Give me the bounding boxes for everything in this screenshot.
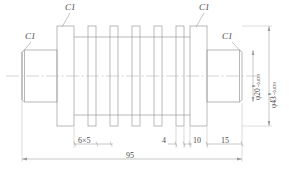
arrow-phi20-top [252, 50, 255, 55]
arrow-95-left [22, 158, 27, 161]
dimension-label-fin-width: 4 [162, 136, 166, 145]
tolerance-lower-phi43: −0.033 [272, 82, 277, 95]
chamfer-label-c1-top-left: C1 [65, 2, 76, 12]
leader-c1-top-right [196, 13, 204, 27]
chamfer-label-c1-left: C1 [25, 31, 36, 41]
part-drawing-canvas [0, 0, 289, 181]
arrow-phi43-top [268, 26, 271, 31]
chamfer-label-c1-top-right: C1 [199, 2, 210, 12]
tolerance-lower-phi20: −0.033 [256, 74, 261, 87]
tolerance-stack-phi20: 0 −0.033 [251, 74, 261, 87]
arrow-95-right [237, 158, 242, 161]
dimension-label-flange-width: 10 [193, 136, 201, 145]
arrow-phi43-bottom [268, 121, 271, 126]
diameter-dimension-phi43: φ43 0 −0.033 [268, 82, 278, 108]
tolerance-stack-phi43: 0 −0.033 [267, 82, 277, 95]
drawing-sheet: C1 C1 C1 C1 6×5 4 10 15 95 φ20 0 −0.033 … [0, 0, 289, 181]
diameter-label-phi43: φ43 [269, 96, 278, 108]
dimension-label-groove-pitch: 6×5 [78, 136, 91, 145]
chamfer-label-c1-right: C1 [222, 31, 233, 41]
dimension-label-overall-length: 95 [126, 151, 134, 160]
leader-c1-top-left [62, 13, 70, 27]
diameter-dimension-phi20: φ20 0 −0.033 [252, 74, 262, 100]
dimension-label-shaft-right: 15 [221, 136, 229, 145]
diameter-label-phi20: φ20 [253, 88, 262, 100]
